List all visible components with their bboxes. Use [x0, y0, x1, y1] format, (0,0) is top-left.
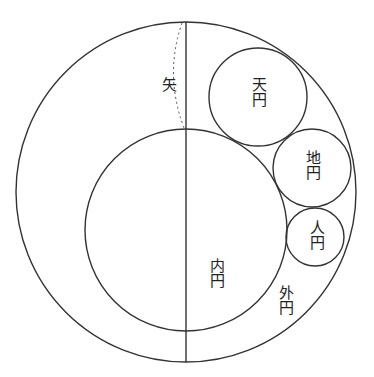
label-human-circle: 人円	[307, 220, 324, 250]
circles-diagram	[0, 0, 374, 377]
arrow-dashed-arc	[173, 23, 184, 128]
label-heaven-circle: 天円	[249, 77, 266, 107]
label-outer-circle: 外円	[276, 285, 293, 315]
label-earth-circle: 地円	[303, 150, 320, 180]
label-ya: 矢	[159, 77, 176, 92]
label-inner-circle: 内円	[207, 258, 224, 288]
